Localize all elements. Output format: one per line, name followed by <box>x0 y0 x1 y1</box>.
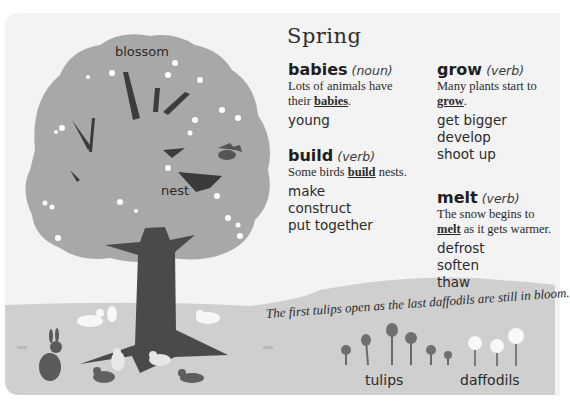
part-of-speech: (verb) <box>337 149 375 164</box>
page-title: Spring <box>287 24 362 48</box>
example-sentence: Many plants start to grow. <box>437 79 552 109</box>
entry-build: build(verb) Some birds build nests. make… <box>288 146 418 234</box>
entry-grow: grow(verb) Many plants start to grow. ge… <box>437 60 552 163</box>
synonym: get bigger <box>437 112 552 129</box>
label-tulips: tulips <box>365 372 403 388</box>
part-of-speech: (noun) <box>352 63 393 78</box>
part-of-speech: (verb) <box>482 191 520 206</box>
synonym: put together <box>288 217 418 234</box>
label-nest: nest <box>161 183 189 198</box>
entry-word: melt <box>437 188 478 207</box>
example-sentence: The snow begins to melt as it gets warme… <box>437 207 555 237</box>
synonym: make <box>288 183 418 200</box>
example-sentence: Some birds build nests. <box>288 165 418 180</box>
synonym: young <box>288 112 418 129</box>
synonym: develop <box>437 129 552 146</box>
entry-word: build <box>288 146 333 165</box>
synonym: defrost <box>437 240 555 257</box>
synonym: shoot up <box>437 146 552 163</box>
part-of-speech: (verb) <box>486 63 524 78</box>
synonym: soften <box>437 257 555 274</box>
entry-babies: babies(noun) Lots of animals have their … <box>288 60 418 129</box>
entry-word: babies <box>288 60 348 79</box>
entry-word: grow <box>437 60 482 79</box>
entry-melt: melt(verb) The snow begins to melt as it… <box>437 188 555 291</box>
example-sentence: Lots of animals have their babies. <box>288 79 418 109</box>
label-daffodils: daffodils <box>460 372 520 388</box>
synonym: construct <box>288 200 418 217</box>
label-blossom: blossom <box>115 44 169 59</box>
